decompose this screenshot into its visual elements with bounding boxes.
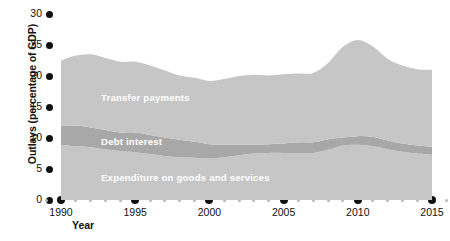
stacked-area-plot xyxy=(0,0,450,241)
series-label-debt-interest: Debt interest xyxy=(101,136,162,147)
chart-container: Outlays (percentage of GDP) Year 0510152… xyxy=(0,0,450,241)
series-label-transfer-payments: Transfer payments xyxy=(101,92,190,103)
series-label-expenditure: Expenditure on goods and services xyxy=(101,172,270,183)
